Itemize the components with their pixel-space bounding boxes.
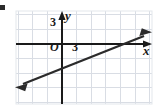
x-axis-label: x	[143, 44, 150, 57]
coordinate-plane-figure: y x O 3 3	[0, 0, 158, 111]
graph-svg	[0, 0, 158, 111]
x-axis-tick-label-3: 3	[72, 41, 78, 53]
y-axis-label: y	[65, 9, 71, 22]
origin-label: O	[50, 41, 59, 53]
canvas-background	[0, 0, 158, 111]
corner-print-mark	[0, 5, 5, 10]
y-axis-tick-label-3: 3	[50, 16, 56, 28]
